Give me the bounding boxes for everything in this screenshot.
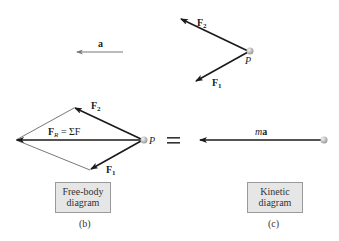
acceleration-label: a xyxy=(98,38,103,49)
force-f1-label-b: F1 xyxy=(106,164,116,177)
caption-b: (b) xyxy=(79,218,91,229)
force-f2-label-b: F2 xyxy=(91,100,101,113)
equals-sign xyxy=(167,137,180,144)
point-p-label-a: P xyxy=(244,55,251,66)
force-f1-arrow-b xyxy=(91,141,141,169)
kinetic-box-line1: Kinetic xyxy=(248,186,302,197)
free-body-diagram-box: Free-body diagram xyxy=(55,182,111,213)
force-f2-arrow-a xyxy=(181,19,248,51)
free-body-box-line2: diagram xyxy=(56,197,110,208)
resultant-label: FR = ΣF xyxy=(48,126,81,139)
point-p-label-b: P xyxy=(148,135,155,146)
force-f1-arrow-a xyxy=(196,52,248,81)
kinetic-diagram-box: Kinetic diagram xyxy=(247,182,303,213)
caption-c: (c) xyxy=(268,218,279,229)
particle-c xyxy=(321,137,328,144)
force-f1-label-a: F1 xyxy=(212,77,222,90)
ma-label: ma xyxy=(255,126,267,137)
free-body-box-line1: Free-body xyxy=(56,186,110,197)
kinetic-box-line2: diagram xyxy=(248,197,302,208)
parallelogram-construction xyxy=(16,108,90,170)
particle-p-b xyxy=(141,137,148,144)
particle-p-a xyxy=(247,48,254,55)
force-f2-arrow-b xyxy=(75,108,141,139)
